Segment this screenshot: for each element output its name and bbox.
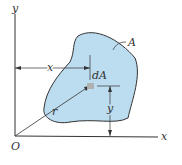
area-label: A bbox=[127, 36, 136, 49]
y-axis-label: y bbox=[11, 2, 19, 15]
element-dA bbox=[87, 83, 94, 89]
x-axis-label: x bbox=[161, 130, 168, 143]
x-distance-label: x bbox=[47, 61, 54, 74]
x-dim-arrow-left bbox=[15, 66, 21, 70]
y-dim-arrow-bottom bbox=[108, 130, 112, 136]
area-diagram: y x O A dA x y r bbox=[0, 0, 182, 165]
origin-label: O bbox=[11, 140, 20, 153]
radius-label: r bbox=[52, 105, 58, 118]
element-label: dA bbox=[92, 69, 107, 82]
area-region bbox=[44, 33, 138, 123]
x-axis bbox=[15, 136, 158, 137]
y-distance-label: y bbox=[106, 102, 114, 115]
